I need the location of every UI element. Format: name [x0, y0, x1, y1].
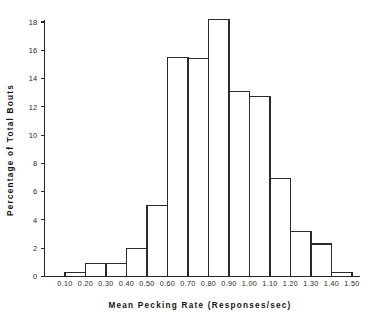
x-axis-title: Mean Pecking Rate (Responses/sec) [108, 301, 291, 310]
histogram-bar [188, 59, 209, 277]
y-tick-label: 18 [29, 18, 38, 27]
bars-group [65, 19, 352, 276]
x-tick-label: 0.40 [119, 279, 134, 288]
x-axis-ticks: 0.100.200.300.400.500.600.700.800.901.00… [57, 272, 359, 289]
x-tick-label: 0.60 [160, 279, 175, 288]
y-tick-label: 4 [33, 216, 37, 225]
histogram-bar [250, 97, 271, 277]
y-tick-label: 6 [33, 187, 37, 196]
chart-canvas: 024681012141618 0.100.200.300.400.500.60… [0, 0, 371, 318]
histogram-bar [86, 264, 107, 277]
x-tick-label: 0.10 [57, 279, 72, 288]
histogram-bar [127, 248, 148, 276]
x-tick-label: 0.50 [139, 279, 154, 288]
x-tick-label: 0.20 [78, 279, 93, 288]
y-tick-label: 2 [33, 244, 37, 253]
y-tick-label: 0 [33, 272, 37, 281]
x-tick-label: 0.70 [180, 279, 195, 288]
histogram-bar [229, 91, 250, 276]
histogram-bar [270, 179, 291, 277]
x-tick-label: 1.00 [242, 279, 257, 288]
x-tick-label: 0.90 [221, 279, 236, 288]
x-tick-label: 1.50 [344, 279, 359, 288]
y-tick-label: 14 [29, 74, 38, 83]
histogram-bar [332, 272, 353, 276]
y-tick-label: 10 [29, 131, 38, 140]
plot-area: 024681012141618 0.100.200.300.400.500.60… [29, 18, 360, 288]
x-tick-label: 1.20 [283, 279, 298, 288]
histogram-bar [291, 231, 312, 276]
x-tick-label: 1.10 [262, 279, 277, 288]
x-tick-label: 0.30 [98, 279, 113, 288]
histogram-bar [311, 244, 332, 277]
histogram-bar [106, 264, 127, 277]
x-tick-label: 0.80 [201, 279, 216, 288]
histogram-bar [209, 19, 230, 276]
x-tick-label: 1.30 [303, 279, 318, 288]
histogram-bar [168, 57, 189, 276]
y-axis-title: Percentage of Total Bouts [6, 84, 15, 216]
histogram-bar [147, 206, 168, 277]
y-tick-label: 12 [29, 103, 38, 112]
y-tick-label: 8 [33, 159, 37, 168]
histogram-figure: 024681012141618 0.100.200.300.400.500.60… [0, 0, 371, 318]
histogram-bar [65, 272, 86, 276]
x-tick-label: 1.40 [324, 279, 339, 288]
y-tick-label: 16 [29, 46, 38, 55]
y-axis-ticks: 024681012141618 [29, 18, 45, 282]
